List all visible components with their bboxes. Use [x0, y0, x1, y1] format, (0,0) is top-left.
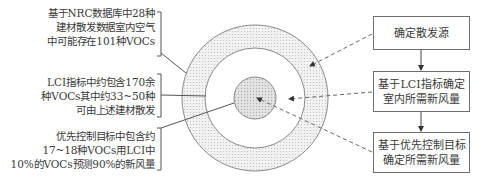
connector-outer	[161, 53, 186, 73]
inner-circle	[234, 77, 276, 119]
note-line: 优先控制目标中包含约	[11, 129, 155, 143]
note-line: 中可能存在101种VOCs	[47, 34, 155, 48]
box-line: 室内所需新风量	[383, 92, 460, 107]
note-line: 可由上述建材散发	[41, 103, 155, 117]
note-line: 建材散发数据室内空气	[47, 20, 155, 34]
box-determine-source: 确定散发源	[373, 16, 470, 50]
note-outer-ring: 基于NRC数据库中28种 建材散发数据室内空气 中可能存在101种VOCs	[47, 6, 155, 48]
note-line: 基于NRC数据库中28种	[47, 6, 155, 20]
box-lci-ventilation: 基于LCI指标确定 室内所需新风量	[373, 71, 470, 112]
box-line: 基于优先控制目标	[378, 138, 466, 153]
note-inner-circle: 优先控制目标中包含约 17~18种VOCs用LCI中 10%的VOCs预测90%…	[11, 129, 155, 171]
box-line: 确定所需新风量	[383, 153, 460, 168]
note-line: LCI指标中约包含170余	[41, 75, 155, 89]
box-line: 基于LCI指标确定	[378, 77, 464, 92]
bracket-inner	[157, 128, 161, 170]
note-line: 10%的VOCs预测90%的新风量	[11, 157, 155, 171]
note-middle-ring: LCI指标中约包含170余 种VOCs其中约33~50种 可由上述建材散发	[41, 75, 155, 117]
note-line: 17~18种VOCs用LCI中	[11, 143, 155, 157]
bracket-middle	[157, 74, 161, 117]
box-line: 确定散发源	[394, 26, 449, 41]
note-line: 种VOCs其中约33~50种	[41, 89, 155, 103]
dashed-arrow-outer	[310, 34, 372, 66]
bracket-outer	[157, 12, 161, 56]
box-priority-ventilation: 基于优先控制目标 确定所需新风量	[373, 132, 470, 173]
